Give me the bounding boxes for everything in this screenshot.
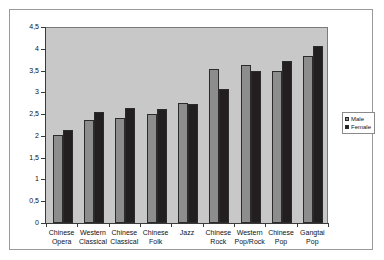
bar-group bbox=[241, 27, 261, 223]
y-axis-tick bbox=[41, 114, 46, 115]
bar-male bbox=[209, 69, 219, 223]
bar-male bbox=[272, 71, 282, 223]
y-axis-tick bbox=[41, 158, 46, 159]
square-black-swatch-icon bbox=[345, 125, 349, 129]
y-axis-tick bbox=[41, 49, 46, 50]
chart-figure: 00,511,522,533,544,5 MaleFemale ChineseO… bbox=[9, 9, 373, 250]
bar-male bbox=[303, 56, 313, 223]
x-axis-label-line: Pop bbox=[289, 238, 335, 247]
y-axis-tick-label: 2,5 bbox=[11, 110, 39, 117]
y-axis-tick-label: 0 bbox=[11, 219, 39, 226]
bar-male bbox=[241, 65, 251, 223]
legend-entry: Male bbox=[345, 115, 372, 123]
bar-group bbox=[209, 27, 229, 223]
x-axis-tick bbox=[171, 223, 172, 227]
y-axis-tick bbox=[41, 71, 46, 72]
x-axis-tick bbox=[328, 223, 329, 227]
x-axis-tick bbox=[297, 223, 298, 227]
x-axis-tick bbox=[77, 223, 78, 227]
x-axis-tick bbox=[140, 223, 141, 227]
bar-group bbox=[272, 27, 292, 223]
bar-female bbox=[157, 109, 167, 223]
legend-label: Male bbox=[351, 115, 364, 123]
legend-label: Female bbox=[351, 123, 371, 131]
x-axis-tick bbox=[203, 223, 204, 227]
y-axis-tick bbox=[41, 201, 46, 202]
bar-group bbox=[53, 27, 73, 223]
bar-male bbox=[178, 103, 188, 223]
bar-female bbox=[219, 89, 229, 223]
y-axis-tick-label: 4 bbox=[11, 45, 39, 52]
legend-entry: Female bbox=[345, 123, 372, 131]
y-axis-tick bbox=[41, 92, 46, 93]
bar-female bbox=[63, 130, 73, 223]
x-axis-label-line: Gangtai bbox=[289, 229, 335, 238]
bar-group bbox=[84, 27, 104, 223]
x-axis-line bbox=[45, 223, 329, 224]
bar-group bbox=[115, 27, 135, 223]
bar-female bbox=[313, 46, 323, 223]
x-axis-label-line: Folk bbox=[133, 238, 179, 247]
bar-group bbox=[178, 27, 198, 223]
square-gray-swatch-icon bbox=[345, 117, 349, 121]
bar-male bbox=[53, 135, 63, 223]
bar-male bbox=[115, 118, 125, 223]
bar-female bbox=[125, 108, 135, 223]
y-axis-tick-label: 3 bbox=[11, 88, 39, 95]
bar-female bbox=[282, 61, 292, 223]
y-axis: 00,511,522,533,544,5 bbox=[10, 10, 39, 251]
bar-male bbox=[84, 120, 94, 223]
bar-group bbox=[303, 27, 323, 223]
bar-group bbox=[147, 27, 167, 223]
y-axis-tick-label: 1,5 bbox=[11, 154, 39, 161]
x-axis-tick bbox=[234, 223, 235, 227]
x-axis-tick bbox=[109, 223, 110, 227]
y-axis-tick bbox=[41, 136, 46, 137]
bar-male bbox=[147, 114, 157, 223]
x-axis-tick bbox=[46, 223, 47, 227]
bar-female bbox=[94, 112, 104, 224]
y-axis-tick bbox=[41, 27, 46, 28]
y-axis-tick-label: 3,5 bbox=[11, 67, 39, 74]
x-axis-label: GangtaiPop bbox=[289, 229, 335, 246]
bar-female bbox=[251, 71, 261, 223]
chart-legend: MaleFemale bbox=[342, 112, 375, 134]
y-axis-tick bbox=[41, 179, 46, 180]
bar-female bbox=[188, 104, 198, 223]
y-axis-tick-label: 1 bbox=[11, 175, 39, 182]
y-axis-tick-label: 2 bbox=[11, 132, 39, 139]
x-axis-tick bbox=[265, 223, 266, 227]
y-axis-tick-label: 0,5 bbox=[11, 197, 39, 204]
y-axis-tick-label: 4,5 bbox=[11, 23, 39, 30]
